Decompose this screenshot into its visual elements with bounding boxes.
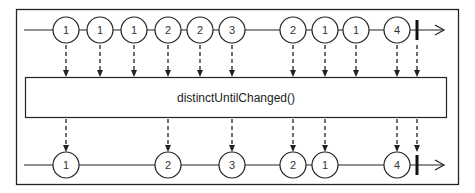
marble: 1 xyxy=(53,152,79,178)
marble-diagram: 1112232114 distinctUntilChanged() 123214 xyxy=(0,0,475,193)
marble: 4 xyxy=(384,17,410,43)
marble-value: 2 xyxy=(197,24,203,36)
marble: 1 xyxy=(53,17,79,43)
arrowhead-icon xyxy=(97,70,103,77)
arrowhead-icon xyxy=(197,70,203,77)
arrowhead-icon xyxy=(394,70,400,77)
marble: 2 xyxy=(280,17,306,43)
arrowhead-icon xyxy=(63,70,69,77)
arrowhead-icon xyxy=(229,70,235,77)
input-marbles: 1112232114 xyxy=(53,17,410,43)
marble: 2 xyxy=(280,152,306,178)
arrowhead-icon xyxy=(229,145,235,152)
marble: 2 xyxy=(187,17,213,43)
arrowhead-icon xyxy=(131,70,137,77)
marble: 1 xyxy=(312,17,338,43)
marble-value: 2 xyxy=(165,159,171,171)
input-stream: 1112232114 xyxy=(24,17,444,77)
arrowhead-icon xyxy=(290,145,296,152)
input-projection-arrows xyxy=(63,45,420,77)
arrowhead-icon xyxy=(394,145,400,152)
marble: 1 xyxy=(312,152,338,178)
arrowhead-icon xyxy=(322,145,328,152)
marble: 1 xyxy=(121,17,147,43)
marble-value: 4 xyxy=(394,24,400,36)
arrowhead-icon xyxy=(290,70,296,77)
operator-label: distinctUntilChanged() xyxy=(177,91,295,105)
marble-value: 2 xyxy=(290,24,296,36)
marble: 4 xyxy=(384,152,410,178)
arrowhead-icon xyxy=(414,70,420,77)
marble-value: 1 xyxy=(131,24,137,36)
marble: 3 xyxy=(219,17,245,43)
output-stream: 123214 xyxy=(24,119,444,178)
marble-value: 1 xyxy=(97,24,103,36)
marble: 3 xyxy=(219,152,245,178)
marble-value: 2 xyxy=(165,24,171,36)
arrowhead-icon xyxy=(63,145,69,152)
marble-value: 1 xyxy=(322,159,328,171)
arrowhead-icon xyxy=(353,70,359,77)
marble-value: 1 xyxy=(353,24,359,36)
marble: 2 xyxy=(155,17,181,43)
arrowhead-icon xyxy=(165,145,171,152)
arrowhead-icon xyxy=(322,70,328,77)
marble: 1 xyxy=(87,17,113,43)
marble-value: 1 xyxy=(322,24,328,36)
marble-value: 3 xyxy=(229,159,235,171)
output-projection-arrows xyxy=(63,119,420,152)
operator-box: distinctUntilChanged() xyxy=(26,78,447,118)
marble: 2 xyxy=(155,152,181,178)
marble: 1 xyxy=(343,17,369,43)
arrowhead-icon xyxy=(414,145,420,152)
marble-value: 1 xyxy=(63,159,69,171)
marble-value: 3 xyxy=(229,24,235,36)
marble-value: 4 xyxy=(394,159,400,171)
marble-value: 1 xyxy=(63,24,69,36)
arrowhead-icon xyxy=(165,70,171,77)
marble-value: 2 xyxy=(290,159,296,171)
